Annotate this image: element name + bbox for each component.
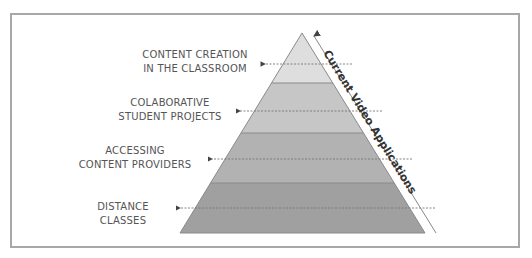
label-line: STUDENT PROJECTS — [75, 110, 265, 124]
label-line: IN THE CLASSROOM — [100, 62, 290, 76]
label-line: DISTANCE — [28, 200, 218, 214]
label-line: CONTENT CREATION — [100, 48, 290, 62]
label-content-creation: CONTENT CREATION IN THE CLASSROOM — [100, 48, 290, 76]
label-line: ACCESSING — [40, 144, 230, 158]
label-line: CONTENT PROVIDERS — [40, 158, 230, 172]
label-line: CLASSES — [28, 214, 218, 228]
label-accessing-content: ACCESSING CONTENT PROVIDERS — [40, 144, 230, 172]
label-line: COLABORATIVE — [75, 96, 265, 110]
label-collaborative-projects: COLABORATIVE STUDENT PROJECTS — [75, 96, 265, 124]
label-distance-classes: DISTANCE CLASSES — [28, 200, 218, 228]
